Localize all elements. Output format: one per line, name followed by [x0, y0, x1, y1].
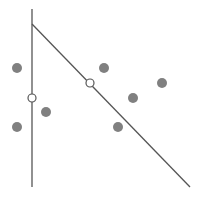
filled-point [12, 63, 22, 73]
diagonal-line [32, 24, 190, 187]
filled-point [128, 93, 138, 103]
open-point [28, 94, 36, 102]
filled-point [157, 78, 167, 88]
diagram-canvas [0, 0, 205, 198]
lines-layer [32, 9, 190, 187]
filled-point [113, 122, 123, 132]
filled-point [12, 122, 22, 132]
filled-point [41, 107, 51, 117]
open-points-layer [28, 79, 94, 102]
filled-point [99, 63, 109, 73]
open-point [86, 79, 94, 87]
